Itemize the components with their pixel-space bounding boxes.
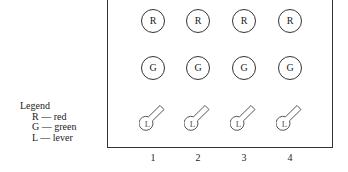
legend-item-green: G — green (20, 122, 76, 133)
red-lamp-1[interactable]: R (141, 9, 165, 33)
red-lamp-2[interactable]: R (186, 9, 210, 33)
green-lamp-2[interactable]: G (186, 56, 210, 80)
lever-icon: L (184, 102, 216, 134)
green-lamp-3[interactable]: G (232, 56, 256, 80)
legend-title: Legend (20, 101, 76, 112)
lever-2[interactable]: L (184, 102, 216, 134)
lever-4[interactable]: L (276, 102, 308, 134)
lever-label: L (282, 119, 288, 129)
legend-item-lever: L — lever (20, 133, 76, 144)
lever-icon: L (230, 102, 262, 134)
green-lamp-1[interactable]: G (141, 56, 165, 80)
lever-1[interactable]: L (139, 102, 171, 134)
lever-label: L (236, 119, 242, 129)
legend: Legend R — red G — green L — lever (20, 101, 76, 143)
red-lamp-3[interactable]: R (232, 9, 256, 33)
column-number-4: 4 (280, 152, 300, 163)
lever-3[interactable]: L (230, 102, 262, 134)
green-lamp-4[interactable]: G (278, 56, 302, 80)
lever-label: L (145, 119, 151, 129)
red-lamp-4[interactable]: R (278, 9, 302, 33)
lever-icon: L (276, 102, 308, 134)
lever-icon: L (139, 102, 171, 134)
column-number-2: 2 (188, 152, 208, 163)
column-number-3: 3 (234, 152, 254, 163)
lever-label: L (190, 119, 196, 129)
column-number-1: 1 (143, 152, 163, 163)
